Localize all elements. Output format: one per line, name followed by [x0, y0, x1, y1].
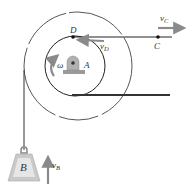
label-vc: vC — [160, 13, 169, 24]
pulley-diagram: D vD C vC ω A B vB — [0, 0, 195, 191]
label-vb: vB — [52, 160, 60, 171]
point-d — [71, 35, 75, 39]
point-c — [156, 35, 160, 39]
label-c: C — [154, 41, 161, 51]
label-omega: ω — [57, 60, 63, 70]
omega-arrow — [51, 57, 56, 76]
label-a: A — [83, 60, 90, 70]
bearing-a — [63, 56, 85, 74]
label-vd: vD — [100, 41, 109, 52]
label-b: B — [20, 161, 27, 173]
label-d: D — [69, 25, 77, 35]
